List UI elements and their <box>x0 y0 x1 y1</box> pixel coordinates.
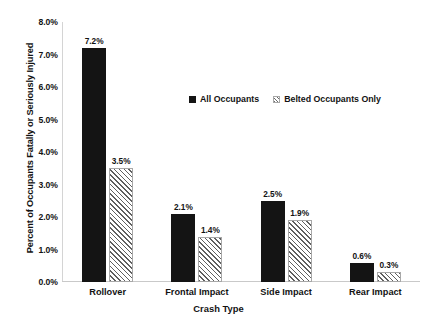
bar-rect <box>288 220 312 282</box>
y-axis-tick-label: 5.0% <box>22 115 58 125</box>
x-axis-tick-label: Rollover <box>89 287 126 297</box>
y-axis-tick-label: 0.0% <box>22 277 58 287</box>
x-axis-tick-label: Rear Impact <box>349 287 402 297</box>
plot-area: 7.2%3.5%2.1%1.4%2.5%1.9%0.6%0.3% <box>63 22 420 282</box>
legend-label: All Occupants <box>200 94 259 104</box>
bar-group: 7.2%3.5% <box>63 22 152 282</box>
bar-all-occupants[interactable]: 2.5% <box>261 201 285 282</box>
bar-belted-occupants-only[interactable]: 1.4% <box>198 237 222 283</box>
bar-all-occupants[interactable]: 2.1% <box>171 214 195 282</box>
y-axis-tick-label: 2.0% <box>22 212 58 222</box>
bar-group: 2.1%1.4% <box>152 22 241 282</box>
x-axis-tick-label: Side Impact <box>260 287 312 297</box>
bar-rect <box>350 263 374 283</box>
bar-belted-occupants-only[interactable]: 1.9% <box>288 220 312 282</box>
y-axis-tick-label: 7.0% <box>22 50 58 60</box>
bar-belted-occupants-only[interactable]: 3.5% <box>109 168 133 282</box>
bar-value-label: 1.4% <box>201 225 220 235</box>
bar-group: 2.5%1.9% <box>242 22 331 282</box>
bar-value-label: 2.1% <box>174 202 193 212</box>
bar-group: 0.6%0.3% <box>331 22 420 282</box>
legend-entry[interactable]: All Occupants <box>189 94 259 104</box>
bar-all-occupants[interactable]: 0.6% <box>350 263 374 283</box>
bar-chart: Percent of Occupants Fatally or Seriousl… <box>0 0 437 332</box>
y-axis-tick-label: 3.0% <box>22 180 58 190</box>
bar-rect <box>377 272 401 282</box>
y-axis-tick-label: 1.0% <box>22 245 58 255</box>
legend-entry[interactable]: Belted Occupants Only <box>273 94 381 104</box>
bar-rect <box>198 237 222 283</box>
bar-value-label: 0.6% <box>352 251 371 261</box>
bar-value-label: 3.5% <box>112 156 131 166</box>
legend-label: Belted Occupants Only <box>284 94 381 104</box>
bar-value-label: 2.5% <box>263 189 282 199</box>
y-axis-tick-label: 8.0% <box>22 17 58 27</box>
y-axis-tick-labels: 0.0%1.0%2.0%3.0%4.0%5.0%6.0%7.0%8.0% <box>22 22 58 282</box>
bar-value-label: 7.2% <box>85 36 104 46</box>
bar-belted-occupants-only[interactable]: 0.3% <box>377 272 401 282</box>
chart-legend: All OccupantsBelted Occupants Only <box>189 94 381 104</box>
solid-square-icon <box>189 96 196 103</box>
x-axis-tick-label: Frontal Impact <box>165 287 228 297</box>
bar-rect <box>261 201 285 282</box>
x-axis-tick-labels: RolloverFrontal ImpactSide ImpactRear Im… <box>63 287 420 303</box>
bar-rect <box>82 48 106 282</box>
hatched-square-icon <box>273 96 280 103</box>
bar-all-occupants[interactable]: 7.2% <box>82 48 106 282</box>
bar-rect <box>171 214 195 282</box>
bar-value-label: 0.3% <box>379 260 398 270</box>
y-axis-tick-label: 4.0% <box>22 147 58 157</box>
x-axis-title: Crash Type <box>0 303 437 314</box>
y-axis-tick-label: 6.0% <box>22 82 58 92</box>
bar-rect <box>109 168 133 282</box>
bar-value-label: 1.9% <box>290 208 309 218</box>
